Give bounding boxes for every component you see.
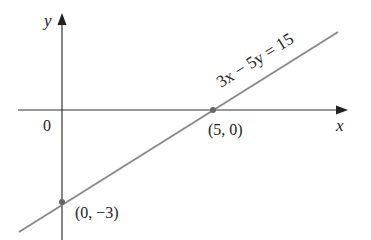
point-label-y-intercept: (0, −3) [75,204,119,222]
graph-canvas: y x 0 (5, 0) (0, −3) 3x − 5y = 15 [0,0,371,240]
point-x-intercept [210,107,216,113]
x-axis-arrow-icon [336,106,348,115]
equation-line [19,32,338,232]
y-axis-arrow-icon [58,13,67,25]
y-axis-label: y [42,11,52,30]
x-axis-label: x [335,116,344,135]
graph-svg: y x 0 (5, 0) (0, −3) 3x − 5y = 15 [0,0,371,240]
origin-label: 0 [43,117,51,134]
point-y-intercept [59,199,65,205]
equation-label: 3x − 5y = 15 [213,29,297,91]
point-label-x-intercept: (5, 0) [208,121,243,139]
